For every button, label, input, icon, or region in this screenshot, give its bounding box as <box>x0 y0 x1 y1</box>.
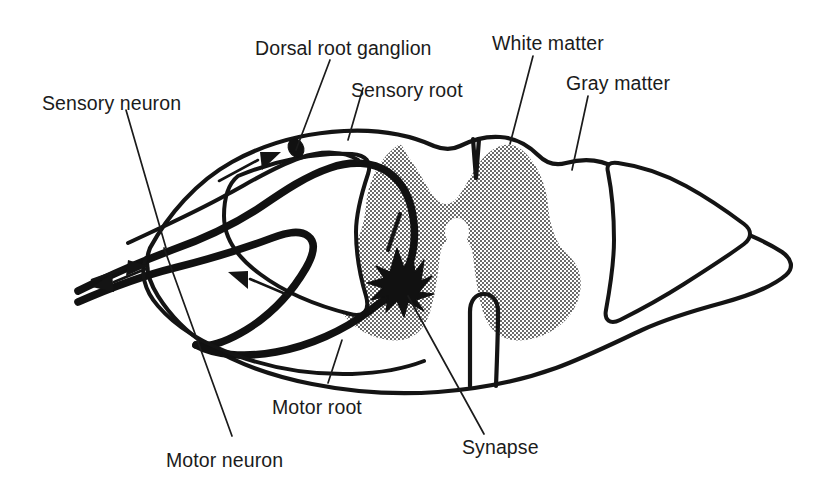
leader-white-matter <box>510 56 533 144</box>
label-motor-neuron: Motor neuron <box>166 449 283 471</box>
central-canal <box>445 218 469 246</box>
label-gray-matter: Gray matter <box>566 72 670 94</box>
leader-sensory-neuron <box>126 110 166 248</box>
label-dorsal-root-ganglion: Dorsal root ganglion <box>255 37 432 59</box>
label-motor-root: Motor root <box>272 396 362 418</box>
label-synapse: Synapse <box>462 436 539 458</box>
spinal-cord-figure: Sensory neuron Dorsal root ganglion Sens… <box>0 0 836 491</box>
label-sensory-neuron: Sensory neuron <box>42 92 181 114</box>
label-white-matter: White matter <box>492 32 604 54</box>
spinal-cord-diagram-svg: Sensory neuron Dorsal root ganglion Sens… <box>0 0 836 491</box>
label-sensory-root: Sensory root <box>351 79 463 101</box>
